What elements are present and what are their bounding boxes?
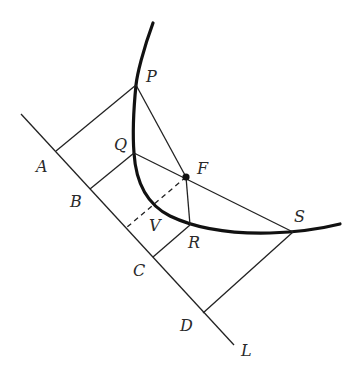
directrix-line [21,114,234,345]
label-L: L [240,341,252,360]
chord-PR [136,85,186,177]
label-V: V [149,216,162,235]
segment-SD [203,232,293,313]
parabola-curve [133,23,340,233]
label-C: C [133,261,145,280]
label-Q: Q [114,135,127,154]
parabola-diagram: P Q F V R S A B C D L [0,0,360,376]
chord-FR [186,177,190,225]
label-A: A [34,157,48,176]
label-B: B [69,192,82,211]
label-P: P [145,67,157,86]
segment-QB [90,153,134,189]
label-R: R [187,233,200,252]
label-F: F [196,159,209,178]
label-D: D [179,316,193,335]
focus-point [182,173,189,180]
label-S: S [294,207,305,226]
